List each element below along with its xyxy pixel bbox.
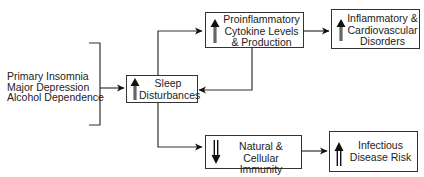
node-label-line: Cellular Immunity — [221, 153, 301, 176]
cause-primary-insomnia: Primary Insomnia — [7, 71, 104, 82]
node-inflammatory-cardiovascular: Inflammatory & Cardiovascular Disorders — [331, 9, 420, 49]
node-sleep-disturbances: Sleep Disturbances — [126, 75, 198, 103]
node-label-line: Sleep — [139, 78, 197, 90]
down-arrow-icon — [211, 140, 221, 164]
node-label-line: Proinflammatory — [220, 14, 303, 26]
node-label-line: Disturbances — [139, 90, 197, 102]
node-natural-cellular-immunity: Natural & Cellular Immunity — [205, 135, 302, 169]
up-arrow-icon — [336, 19, 346, 41]
diagram-canvas: Primary Insomnia Major Depression Alcoho… — [0, 0, 424, 177]
up-arrow-icon — [334, 142, 344, 166]
node-label-line: Inflammatory & — [346, 13, 419, 25]
node-infectious-disease-risk: Infectious Disease Risk — [329, 131, 418, 172]
node-label-line: Disorders — [346, 36, 419, 48]
node-label-line: & Production — [220, 37, 303, 49]
node-proinflammatory-cytokine: Proinflammatory Cytokine Levels & Produc… — [205, 12, 304, 48]
node-label-line: Disease Risk — [344, 152, 417, 164]
up-arrow-icon — [210, 19, 220, 43]
cause-alcohol-dependence: Alcohol Dependence — [7, 92, 104, 103]
node-label-line: Natural & — [221, 141, 301, 153]
node-label-line: Infectious — [344, 140, 417, 152]
causes-list: Primary Insomnia Major Depression Alcoho… — [7, 71, 104, 103]
